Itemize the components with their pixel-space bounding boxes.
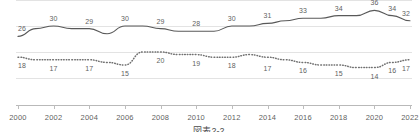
data-label: 20 [157,57,165,65]
data-label: 29 [157,18,165,26]
x-axis-tick-label: 2020 [366,113,384,122]
data-label-layer: 2630293029283031333436343218171715201918… [0,0,418,104]
data-label: 26 [18,25,26,33]
data-label: 36 [370,0,378,7]
x-axis-tick-label: 2016 [294,113,312,122]
data-label: 16 [388,67,396,75]
x-axis-tick-label: 2014 [259,113,277,122]
data-label: 16 [299,67,307,75]
x-axis-tick-label: 2002 [45,113,63,122]
data-label: 17 [50,65,58,73]
data-label: 34 [335,5,343,13]
x-axis-tick-label: 2006 [116,113,134,122]
data-label: 19 [192,60,200,68]
data-label: 17 [402,65,410,73]
x-axis-tick-label: 2012 [223,113,241,122]
data-label: 30 [228,15,236,23]
data-label: 33 [299,7,307,15]
data-label: 31 [264,12,272,20]
plot-area: 2630293029283031333436343218171715201918… [0,0,418,104]
x-axis-tick [374,105,375,109]
x-axis-tick [196,105,197,109]
x-axis-tick [54,105,55,109]
chart-caption: 図表2-2 [0,126,418,132]
x-axis-tick-label: 2008 [152,113,170,122]
data-label: 17 [264,65,272,73]
data-label: 18 [228,62,236,70]
x-axis-line [16,105,412,106]
data-label: 14 [370,73,378,81]
data-label: 18 [18,62,26,70]
x-axis-tick [18,105,19,109]
x-axis-tick [125,105,126,109]
x-axis-tick-label: 2010 [187,113,205,122]
x-axis-tick [339,105,340,109]
data-label: 15 [335,70,343,78]
data-label: 34 [388,5,396,13]
data-label: 30 [121,15,129,23]
data-label: 29 [85,18,93,26]
x-axis-tick [89,105,90,109]
data-label: 15 [121,70,129,78]
data-label: 28 [192,20,200,28]
x-axis-tick [303,105,304,109]
data-label: 17 [85,65,93,73]
x-axis-tick [161,105,162,109]
x-axis-tick-label: 2022 [401,113,419,122]
x-axis-tick-label: 2018 [330,113,348,122]
x-axis-tick [410,105,411,109]
x-axis-tick [232,105,233,109]
data-label: 32 [402,10,410,18]
x-axis-tick-label: 2004 [81,113,99,122]
data-label: 30 [50,15,58,23]
x-axis-tick-label: 2000 [9,113,27,122]
x-axis-tick [268,105,269,109]
